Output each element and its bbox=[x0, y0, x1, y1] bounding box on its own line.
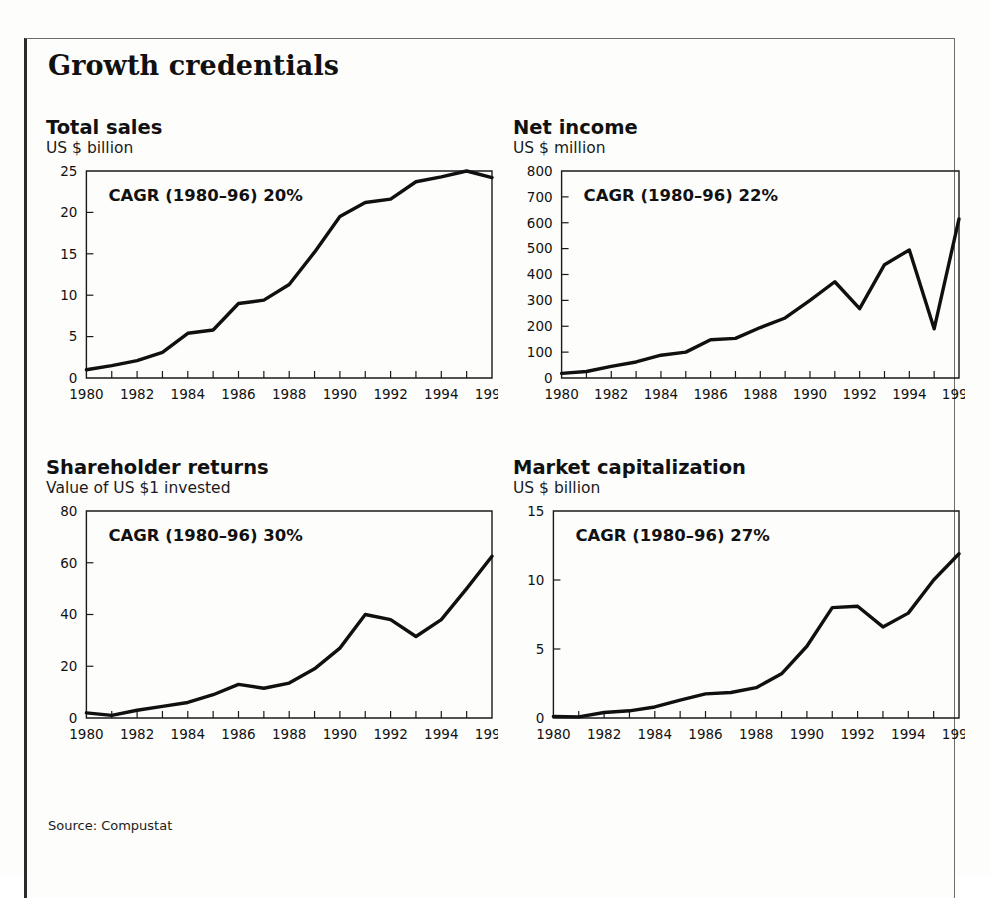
x-tick-label: 1994 bbox=[424, 726, 458, 742]
x-tick-label: 1984 bbox=[171, 726, 205, 742]
y-tick-label: 15 bbox=[60, 245, 77, 261]
line-chart-net-income: 0100200300400500600700800198019821984198… bbox=[513, 165, 965, 415]
cagr-annotation: CAGR (1980–96) 22% bbox=[584, 186, 779, 205]
x-tick-label: 1980 bbox=[69, 386, 103, 402]
x-tick-label: 1992 bbox=[842, 386, 876, 402]
chart-title: Market capitalization bbox=[513, 458, 965, 478]
cagr-annotation: CAGR (1980–96) 27% bbox=[575, 526, 770, 545]
chart-subtitle: US $ million bbox=[513, 139, 965, 158]
line-chart-total-sales: 0510152025198019821984198619881990199219… bbox=[46, 165, 498, 415]
x-tick-label: 1990 bbox=[793, 386, 827, 402]
y-tick-label: 5 bbox=[69, 328, 78, 344]
x-tick-label: 1988 bbox=[272, 726, 306, 742]
series-line bbox=[553, 554, 959, 717]
x-tick-label: 1996 bbox=[475, 726, 498, 742]
x-tick-label: 1990 bbox=[790, 726, 824, 742]
x-tick-label: 1996 bbox=[942, 386, 965, 402]
chart-panel-market-capitalization: Market capitalization US $ billion 05101… bbox=[513, 458, 965, 758]
cagr-annotation: CAGR (1980–96) 30% bbox=[108, 526, 303, 545]
x-tick-label: 1988 bbox=[739, 726, 773, 742]
chart-title: Net income bbox=[513, 118, 965, 138]
y-tick-label: 25 bbox=[60, 165, 77, 179]
y-tick-label: 0 bbox=[536, 710, 545, 726]
chart-subtitle: Value of US $1 invested bbox=[46, 479, 498, 498]
x-tick-label: 1986 bbox=[688, 726, 722, 742]
chart-title: Shareholder returns bbox=[46, 458, 498, 478]
y-tick-label: 80 bbox=[60, 505, 77, 519]
x-tick-label: 1986 bbox=[221, 726, 255, 742]
y-tick-label: 0 bbox=[544, 370, 553, 386]
source-note: Source: Compustat bbox=[48, 818, 172, 833]
exhibit-title: Growth credentials bbox=[48, 50, 339, 81]
line-chart-shareholder-returns: 0204060801980198219841986198819901992199… bbox=[46, 505, 498, 755]
x-tick-label: 1980 bbox=[69, 726, 103, 742]
chart-panel-shareholder-returns: Shareholder returns Value of US $1 inves… bbox=[46, 458, 498, 758]
x-tick-label: 1982 bbox=[120, 726, 154, 742]
x-tick-label: 1990 bbox=[323, 726, 357, 742]
x-tick-label: 1982 bbox=[587, 726, 621, 742]
y-tick-label: 40 bbox=[60, 606, 77, 622]
x-tick-label: 1980 bbox=[536, 726, 570, 742]
y-tick-label: 15 bbox=[527, 505, 544, 519]
y-tick-label: 700 bbox=[527, 189, 553, 205]
x-tick-label: 1996 bbox=[942, 726, 965, 742]
x-tick-label: 1988 bbox=[743, 386, 777, 402]
x-tick-label: 1980 bbox=[544, 386, 578, 402]
x-tick-label: 1982 bbox=[120, 386, 154, 402]
chart-subtitle: US $ billion bbox=[46, 139, 498, 158]
y-tick-label: 10 bbox=[60, 287, 77, 303]
y-tick-label: 20 bbox=[60, 204, 77, 220]
y-tick-label: 500 bbox=[527, 240, 553, 256]
series-line bbox=[86, 556, 492, 715]
x-tick-label: 1982 bbox=[594, 386, 628, 402]
y-tick-label: 60 bbox=[60, 554, 77, 570]
y-tick-label: 400 bbox=[527, 266, 553, 282]
y-tick-label: 800 bbox=[527, 165, 553, 179]
y-tick-label: 0 bbox=[69, 370, 78, 386]
chart-panel-total-sales: Total sales US $ billion 051015202519801… bbox=[46, 118, 498, 418]
chart-title: Total sales bbox=[46, 118, 498, 138]
x-tick-label: 1992 bbox=[373, 726, 407, 742]
y-tick-label: 10 bbox=[527, 572, 544, 588]
line-chart-market-capitalization: 0510151980198219841986198819901992199419… bbox=[513, 505, 965, 755]
y-tick-label: 5 bbox=[536, 641, 545, 657]
x-tick-label: 1986 bbox=[221, 386, 255, 402]
chart-subtitle: US $ billion bbox=[513, 479, 965, 498]
x-tick-label: 1994 bbox=[891, 726, 925, 742]
x-tick-label: 1992 bbox=[373, 386, 407, 402]
x-tick-label: 1996 bbox=[475, 386, 498, 402]
x-tick-label: 1994 bbox=[424, 386, 458, 402]
y-tick-label: 300 bbox=[527, 292, 553, 308]
y-tick-label: 20 bbox=[60, 658, 77, 674]
x-tick-label: 1992 bbox=[840, 726, 874, 742]
x-tick-label: 1984 bbox=[644, 386, 678, 402]
x-tick-label: 1988 bbox=[272, 386, 306, 402]
y-tick-label: 200 bbox=[527, 318, 553, 334]
chart-panel-net-income: Net income US $ million 0100200300400500… bbox=[513, 118, 965, 418]
x-tick-label: 1984 bbox=[171, 386, 205, 402]
y-tick-label: 600 bbox=[527, 214, 553, 230]
cagr-annotation: CAGR (1980–96) 20% bbox=[108, 186, 303, 205]
x-tick-label: 1984 bbox=[638, 726, 672, 742]
y-tick-label: 0 bbox=[69, 710, 78, 726]
x-tick-label: 1990 bbox=[323, 386, 357, 402]
x-tick-label: 1994 bbox=[892, 386, 926, 402]
y-tick-label: 100 bbox=[527, 344, 553, 360]
x-tick-label: 1986 bbox=[693, 386, 727, 402]
series-line bbox=[562, 219, 959, 373]
